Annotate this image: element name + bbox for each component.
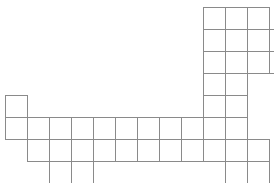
grid-cell — [225, 51, 247, 73]
grid-cell — [203, 7, 225, 29]
grid-cell — [225, 73, 247, 95]
grid-cell — [203, 51, 225, 73]
grid-cell — [27, 139, 49, 161]
grid-cell — [269, 29, 274, 51]
grid-cell — [159, 117, 181, 139]
figure-canvas — [0, 0, 274, 183]
grid-cell — [27, 117, 49, 139]
grid-cell — [247, 7, 269, 29]
grid-cell — [5, 117, 27, 139]
grid-cell — [93, 117, 115, 139]
grid-cell — [159, 139, 181, 161]
grid-cell — [247, 139, 269, 161]
grid-cell — [225, 29, 247, 51]
grid-cell — [247, 51, 269, 73]
grid-cell — [71, 117, 93, 139]
grid-cell — [49, 161, 71, 183]
grid-cell — [181, 117, 203, 139]
grid-cell — [71, 161, 93, 183]
grid-cell — [225, 139, 247, 161]
grid-cell — [181, 139, 203, 161]
grid-cell — [93, 139, 115, 161]
grid-cell — [137, 139, 159, 161]
grid-cell — [5, 95, 27, 117]
grid-polyomino-svg — [0, 0, 274, 183]
grid-cell — [203, 29, 225, 51]
grid-cell — [203, 117, 225, 139]
grid-cell — [71, 139, 93, 161]
grid-cell — [225, 161, 247, 183]
grid-cell — [49, 117, 71, 139]
grid-cell — [225, 117, 247, 139]
grid-cell — [115, 139, 137, 161]
grid-cell — [247, 161, 269, 183]
grid-cell — [225, 7, 247, 29]
grid-cell — [49, 139, 71, 161]
grid-cell — [269, 51, 274, 73]
grid-cell — [137, 117, 159, 139]
grid-cell — [247, 29, 269, 51]
grid-cell — [115, 117, 137, 139]
grid-cell — [203, 73, 225, 95]
grid-cell — [225, 95, 247, 117]
grid-cell — [203, 95, 225, 117]
grid-cell — [203, 139, 225, 161]
